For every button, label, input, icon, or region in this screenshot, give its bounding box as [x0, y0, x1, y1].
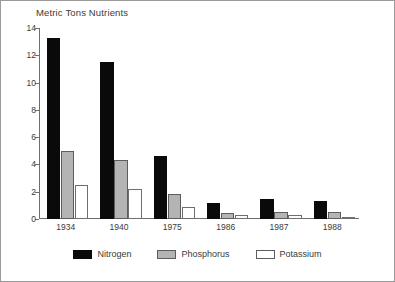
bar-nitrogen-1987[interactable] [260, 199, 274, 219]
bar-nitrogen-1986[interactable] [207, 203, 221, 219]
plot-area: 02468101214 193419401975198619871988 [39, 28, 359, 219]
bar-phosphorus-1986[interactable] [221, 213, 235, 219]
bar-phosphorus-1934[interactable] [61, 151, 75, 219]
x-tick-label: 1940 [92, 222, 145, 232]
bar-potassium-1987[interactable] [288, 215, 302, 219]
y-tick-label: 10 [27, 78, 36, 88]
x-tick-label: 1988 [306, 222, 359, 232]
x-tick-label: 1986 [199, 222, 252, 232]
legend-swatch-icon [73, 250, 92, 259]
legend-item-phosphorus[interactable]: Phosphorus [157, 249, 229, 259]
bar-group [207, 28, 249, 219]
x-tick-label: 1934 [39, 222, 92, 232]
y-tick-label: 12 [27, 50, 36, 60]
legend-item-potassium[interactable]: Potassium [256, 249, 322, 259]
bar-group [47, 28, 89, 219]
legend-label: Potassium [280, 249, 322, 259]
chart-legend: NitrogenPhosphorusPotassium [1, 249, 394, 259]
bar-phosphorus-1988[interactable] [328, 212, 342, 219]
bar-phosphorus-1940[interactable] [114, 160, 128, 219]
y-tick-label: 8 [31, 105, 36, 115]
y-tick-label: 2 [31, 187, 36, 197]
chart-title: Metric Tons Nutrients [36, 7, 128, 18]
y-axis-line [39, 28, 40, 219]
chart-figure: Metric Tons Nutrients 02468101214 193419… [0, 0, 395, 282]
legend-label: Nitrogen [97, 249, 131, 259]
y-tick-label: 0 [31, 214, 36, 224]
bar-nitrogen-1934[interactable] [47, 38, 61, 219]
bar-potassium-1975[interactable] [182, 207, 196, 219]
bar-phosphorus-1987[interactable] [274, 212, 288, 219]
bar-phosphorus-1975[interactable] [168, 194, 182, 219]
bar-group [100, 28, 142, 219]
legend-label: Phosphorus [181, 249, 229, 259]
bar-group [314, 28, 356, 219]
y-tick-label: 6 [31, 132, 36, 142]
bar-potassium-1988[interactable] [342, 217, 356, 219]
bar-potassium-1934[interactable] [75, 185, 89, 219]
bar-nitrogen-1988[interactable] [314, 201, 328, 219]
bar-nitrogen-1940[interactable] [100, 62, 114, 219]
x-tick-label: 1987 [252, 222, 305, 232]
y-tick-label: 4 [31, 159, 36, 169]
bar-potassium-1986[interactable] [235, 215, 249, 219]
legend-swatch-icon [157, 250, 176, 259]
y-tick-label: 14 [27, 23, 36, 33]
bar-group [154, 28, 196, 219]
bar-group [260, 28, 302, 219]
legend-swatch-icon [256, 250, 275, 259]
legend-item-nitrogen[interactable]: Nitrogen [73, 249, 131, 259]
x-tick-label: 1975 [146, 222, 199, 232]
bar-potassium-1940[interactable] [128, 189, 142, 219]
bar-nitrogen-1975[interactable] [154, 156, 168, 219]
